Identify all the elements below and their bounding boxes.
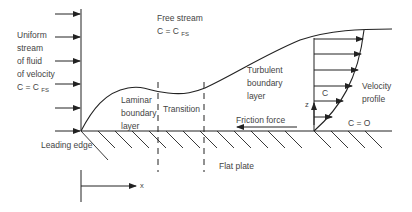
laminar-line-1: Laminar xyxy=(121,94,156,107)
transition-label: Transition xyxy=(163,103,200,116)
velocity-profile-line-2: profile xyxy=(362,93,391,106)
velocity-profile-arrows xyxy=(314,39,363,117)
wall-velocity-label: C = O xyxy=(348,117,370,130)
velocity-profile-label: Velocity profile xyxy=(362,80,391,106)
velocity-profile-curve xyxy=(314,30,364,131)
uniform-stream-line-2: stream xyxy=(17,42,55,55)
uniform-stream-equation: C = C FS xyxy=(17,81,55,97)
friction-force-label: Friction force xyxy=(236,114,285,127)
free-stream-label: Free stream C = C FS xyxy=(157,12,203,41)
diagram-canvas xyxy=(0,0,412,212)
uniform-stream-line-1: Uniform xyxy=(17,29,55,42)
uniform-stream-arrows xyxy=(55,14,80,131)
turbulent-line-2: boundary xyxy=(247,77,283,90)
plate-hatching xyxy=(81,131,382,160)
laminar-line-3: layer xyxy=(121,120,156,133)
laminar-label: Laminar boundary layer xyxy=(121,94,156,133)
flat-plate-label: Flat plate xyxy=(219,160,254,173)
x-axis-label: x xyxy=(140,179,144,192)
uniform-stream-line-4: of velocity xyxy=(17,68,55,81)
leading-edge-label: Leading edge xyxy=(41,139,93,152)
turbulent-label: Turbulent boundary layer xyxy=(247,64,283,103)
velocity-profile-line-1: Velocity xyxy=(362,80,391,93)
laminar-line-2: boundary xyxy=(121,107,156,120)
z-label: z xyxy=(305,98,309,111)
c-label: C xyxy=(322,87,328,100)
uniform-stream-label: Uniform stream of fluid of velocity C = … xyxy=(17,29,55,97)
turbulent-line-1: Turbulent xyxy=(247,64,283,77)
turbulent-line-3: layer xyxy=(247,90,283,103)
free-stream-text: Free stream xyxy=(157,12,203,25)
uniform-stream-line-3: of fluid xyxy=(17,55,55,68)
free-stream-equation: C = C FS xyxy=(157,25,203,41)
boundary-layer-diagram: Uniform stream of fluid of velocity C = … xyxy=(0,0,412,212)
